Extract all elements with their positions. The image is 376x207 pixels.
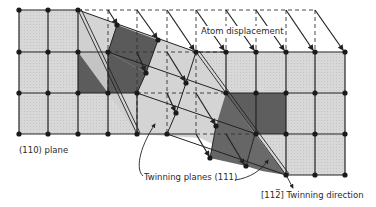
twinning-diagram: Atom displacement (110) plane Twinning p…: [0, 0, 376, 207]
atom-displacement-label: Atom displacement: [200, 26, 284, 36]
plane-110-label: (110) plane: [19, 145, 68, 155]
twinning-planes-label: Twinning planes (111): [144, 172, 237, 182]
twinning-direction-label: [112̅] Twinning direction: [261, 190, 364, 200]
